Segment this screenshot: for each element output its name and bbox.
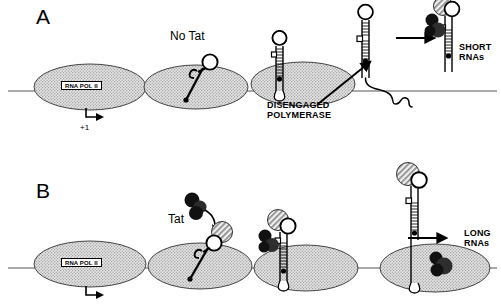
tat-label: Tat [168,213,184,226]
tat-protein-icon-b2 [259,230,280,253]
disengaged-polymerase-label: DISENGAGED POLYMERASE [267,100,331,120]
panel-b-group [8,163,497,300]
no-tat-label: No Tat [170,30,204,43]
start-site-label: +1 [80,124,89,133]
panel-b-letter: B [36,180,50,201]
tar-hairpin-free [357,5,412,107]
short-rnas-label: SHORT RNAs [459,42,492,62]
panel-a-letter: A [36,6,50,27]
start-site-arrow-b [86,286,104,299]
rna-pol-ii-label-a: RNA POL II [61,81,102,90]
rna-pol-ii-label-b: RNA POL II [61,258,102,267]
long-rnas-label: LONG RNAs [464,228,491,248]
tat-protein-icon [425,14,446,38]
figure-canvas: A B No Tat DISENGAGED POLYMERASE SHORT R… [0,0,501,305]
panel-a-group [8,0,497,121]
tat-protein-free-icon [185,193,207,221]
polymerase-tat-engaged[interactable] [254,245,358,291]
tar-hairpin-tat-bound [425,0,460,72]
polymerase-paused[interactable] [144,65,248,109]
